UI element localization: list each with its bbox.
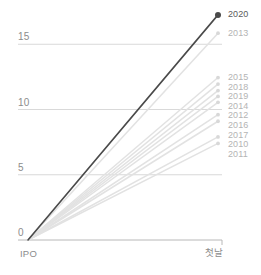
series-line-2012[interactable] xyxy=(28,102,218,240)
series-endpoint-2013[interactable] xyxy=(216,31,220,35)
series-line-2015[interactable] xyxy=(28,78,218,240)
y-tick-15: 15 xyxy=(18,32,30,42)
series-endpoint-2015[interactable] xyxy=(216,76,220,80)
series-line-2016[interactable] xyxy=(28,115,218,240)
series-line-2010[interactable] xyxy=(28,137,218,240)
series-label-2010[interactable]: 2010 xyxy=(228,140,248,149)
x-tick-ipo: IPO xyxy=(20,249,37,259)
y-tick-10: 10 xyxy=(18,98,30,108)
y-tick-5: 5 xyxy=(18,163,24,173)
series-endpoint-2017[interactable] xyxy=(216,119,220,123)
series-label-2011[interactable]: 2011 xyxy=(228,150,248,159)
series-label-2016[interactable]: 2016 xyxy=(228,121,248,130)
series-endpoint-2014[interactable] xyxy=(216,95,220,99)
series-label-2015[interactable]: 2015 xyxy=(228,73,248,82)
y-tick-0: 0 xyxy=(18,228,24,238)
series-label-2013[interactable]: 2013 xyxy=(228,29,248,38)
series-line-2013[interactable] xyxy=(28,33,218,240)
series-endpoint-2012[interactable] xyxy=(216,100,220,104)
chart-plot-area xyxy=(0,0,261,275)
series-line-2020[interactable] xyxy=(28,15,218,240)
series-label-2020[interactable]: 2020 xyxy=(228,10,248,19)
series-endpoint-2018[interactable] xyxy=(216,82,220,86)
series-endpoint-2020[interactable] xyxy=(215,12,221,18)
x-tick-first-day: 첫날 xyxy=(205,248,223,258)
series-endpoint-2019[interactable] xyxy=(216,89,220,93)
series-line-2017[interactable] xyxy=(28,121,218,240)
series-endpoint-2010[interactable] xyxy=(216,135,220,139)
series-label-2019[interactable]: 2019 xyxy=(228,92,248,101)
series-endpoint-2016[interactable] xyxy=(216,113,220,117)
series-line-2018[interactable] xyxy=(28,84,218,240)
slope-chart: 051015 IPO첫날 202020132015201820192014201… xyxy=(0,0,261,275)
series-endpoint-2011[interactable] xyxy=(216,142,220,146)
